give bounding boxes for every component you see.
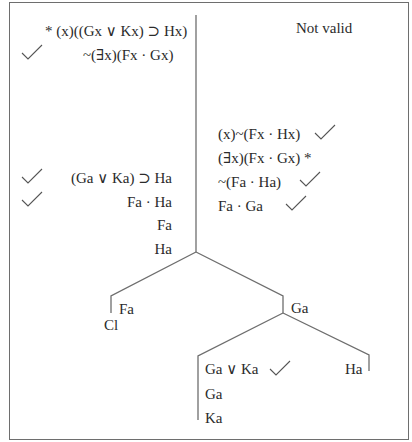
check-icon: [22, 45, 42, 59]
derived-line-1: (Ga ∨ Ka) ⊃ Ha: [71, 169, 172, 187]
premise-2: ~(∃x)(Fx · Gx): [83, 46, 173, 64]
check-icon: [286, 196, 306, 210]
verdict-label: Not valid: [296, 19, 352, 37]
right-line-1: (x)~(Fx · Hx): [218, 125, 300, 143]
branch-left-closed: Cl: [104, 316, 118, 334]
branch-left-label: Fa: [119, 300, 134, 318]
sub-right-label: Ha: [345, 360, 363, 378]
derived-line-4: Ha: [155, 240, 173, 258]
check-icon: [270, 361, 290, 375]
check-icon: [22, 169, 42, 183]
right-branch-line: [196, 252, 283, 313]
check-icon: [22, 192, 42, 206]
derived-line-2: Fa · Ha: [127, 193, 172, 211]
check-icon: [300, 172, 320, 186]
right-line-2: (∃x)(Fx · Gx) *: [218, 149, 312, 167]
sub-left-line-1: Ga ∨ Ka: [205, 360, 258, 378]
right-line-4: Fa · Ga: [218, 197, 263, 215]
sub-left-line-3: Ka: [205, 409, 223, 427]
derived-line-3: Fa: [157, 216, 172, 234]
premise-1: * (x)((Gx ∨ Kx) ⊃ Hx): [45, 22, 187, 40]
branch-right-label: Ga: [291, 299, 309, 317]
check-marks: [22, 45, 335, 375]
right-line-3: ~(Fa · Ha): [218, 173, 281, 191]
sub-left-line-2: Ga: [205, 385, 223, 403]
check-icon: [315, 125, 335, 139]
